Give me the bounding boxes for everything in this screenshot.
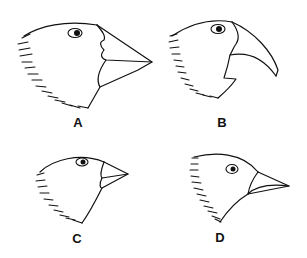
bird-a-drawing xyxy=(18,23,152,108)
bird-c-feathers-icon xyxy=(36,173,82,223)
bird-b-drawing xyxy=(169,21,278,98)
bird-c-drawing xyxy=(36,157,128,223)
bird-c-label: C xyxy=(72,232,81,245)
bird-d-drawing xyxy=(190,154,289,222)
bird-a-feathers-icon xyxy=(18,34,88,108)
bird-a-label: A xyxy=(73,116,82,129)
bird-d-feathers-icon xyxy=(190,158,221,222)
bird-d-label: D xyxy=(215,231,224,244)
finch-beak-diagram: A B C D xyxy=(0,0,307,258)
bird-b-label: B xyxy=(217,116,226,129)
bird-b-feathers-icon xyxy=(169,34,218,98)
